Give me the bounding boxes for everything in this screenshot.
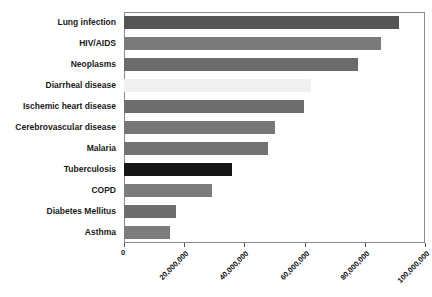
x-axis-tick-mark: [124, 243, 125, 247]
bar-row: [124, 138, 425, 159]
x-axis-tick-label: 60,000,000: [278, 249, 311, 282]
y-axis-tick-label: Malaria: [87, 138, 116, 159]
bar-row: [124, 117, 425, 138]
x-axis-tick-label: 0: [121, 248, 125, 257]
bar: [124, 184, 212, 197]
y-axis-tick-label: Asthma: [85, 222, 116, 243]
x-axis-tick-mark: [184, 243, 185, 247]
y-axis-tick-label: Diabetes Mellitus: [47, 201, 116, 222]
bar: [124, 100, 304, 113]
bar-chart: Lung infectionHIV/AIDSNeoplasmsDiarrheal…: [0, 0, 432, 297]
bar: [124, 205, 176, 218]
bar-row: [124, 75, 425, 96]
bar-row: [124, 180, 425, 201]
bar: [124, 163, 232, 176]
bar-row: [124, 96, 425, 117]
bar-row: [124, 54, 425, 75]
bar: [124, 142, 268, 155]
x-axis-tick-label: 20,000,000: [158, 249, 191, 282]
y-axis-tick-label: Neoplasms: [71, 54, 116, 75]
y-axis-tick-label: COPD: [91, 180, 116, 201]
x-axis-tick-label: 40,000,000: [218, 249, 251, 282]
y-axis-tick-label: Lung infection: [57, 12, 116, 33]
x-axis-tick-label: 100,000,000: [396, 249, 432, 285]
x-axis-tick-mark: [365, 243, 366, 247]
x-axis-tick-label: 80,000,000: [338, 249, 371, 282]
bar: [124, 37, 381, 50]
bar: [124, 16, 399, 29]
bar: [124, 79, 311, 92]
y-axis-tick-label: Diarrheal disease: [46, 75, 116, 96]
bar-series: [124, 12, 425, 243]
bar-row: [124, 33, 425, 54]
y-axis-tick-label: Ischemic heart disease: [23, 96, 116, 117]
x-axis-tick-mark: [425, 243, 426, 247]
x-axis-ticks: 020,000,00040,000,00060,000,00080,000,00…: [124, 243, 425, 297]
bar: [124, 121, 275, 134]
y-axis-tick-label: Tuberculosis: [64, 159, 116, 180]
y-axis-labels: Lung infectionHIV/AIDSNeoplasmsDiarrheal…: [0, 12, 120, 243]
bar-row: [124, 201, 425, 222]
x-axis-tick-mark: [244, 243, 245, 247]
bar: [124, 226, 170, 239]
bar-row: [124, 12, 425, 33]
y-axis-tick-label: Cerebrovascular disease: [15, 117, 116, 138]
x-axis-tick-mark: [305, 243, 306, 247]
bar-row: [124, 159, 425, 180]
bar: [124, 58, 358, 71]
y-axis-tick-label: HIV/AIDS: [79, 33, 116, 54]
bar-row: [124, 222, 425, 243]
